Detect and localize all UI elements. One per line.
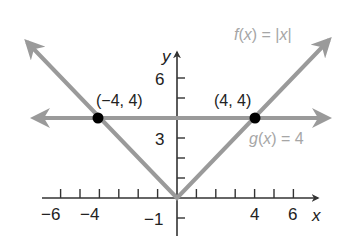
point-neg4-4 bbox=[93, 113, 104, 124]
point-label-4-4: (4, 4) bbox=[214, 93, 251, 109]
point-label-neg4-4: (−4, 4) bbox=[96, 93, 143, 109]
f-eq: = | bbox=[257, 26, 279, 43]
y-tick-label-3: 3 bbox=[155, 131, 164, 148]
chart-canvas bbox=[0, 0, 356, 236]
g-eq: = 4 bbox=[277, 130, 304, 147]
x-axis-label: x bbox=[312, 207, 321, 224]
y-tick-label-6: 6 bbox=[155, 71, 164, 88]
f-end: | bbox=[288, 26, 292, 43]
function-label-f: f(x) = |x| bbox=[234, 27, 292, 43]
f-var2: x bbox=[280, 26, 288, 43]
y-axis-label: y bbox=[162, 48, 171, 65]
y-tick-label-neg1: −1 bbox=[144, 211, 163, 228]
point-4-4 bbox=[250, 113, 261, 124]
y-axis bbox=[177, 52, 185, 236]
x-tick-label-4: 4 bbox=[250, 206, 259, 223]
function-label-g: g(x) = 4 bbox=[249, 131, 304, 147]
f-var: x bbox=[244, 26, 252, 43]
x-tick-label-neg4: −4 bbox=[80, 206, 99, 223]
x-tick-label-neg6: −6 bbox=[41, 206, 60, 223]
x-tick-label-6: 6 bbox=[288, 206, 297, 223]
g-fn: g bbox=[249, 130, 258, 147]
